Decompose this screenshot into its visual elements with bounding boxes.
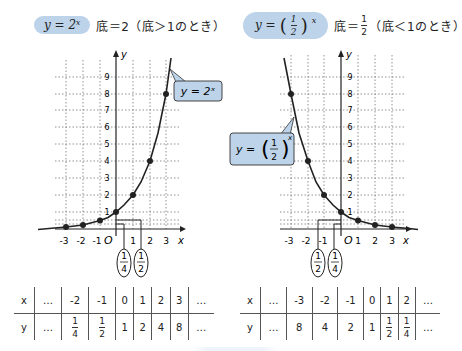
- right-callout-exp: x: [287, 134, 293, 142]
- right-table-y-row: y … 8 4 2 1 12 14 …: [240, 314, 440, 341]
- right-callout-pointer: [280, 117, 294, 135]
- right-y-ticks: 1 2 3 4 5 6 7 8 9: [347, 73, 352, 217]
- right-graph: y x O -3 -2 -1 1 2 3 1 2 3 4 5 6 7 8 9 1…: [0, 0, 456, 290]
- svg-text:2: 2: [372, 236, 378, 246]
- right-callout-prefix: y =: [235, 143, 255, 156]
- right-annotation-quarter-num: 1: [332, 251, 338, 261]
- svg-text:8: 8: [347, 90, 352, 99]
- svg-text:-1: -1: [319, 236, 328, 246]
- right-table-x-row: x … -3 -2 -1 0 1 2 …: [240, 287, 440, 314]
- figure-caption-partial: [190, 347, 280, 351]
- svg-text:3: 3: [389, 236, 395, 246]
- right-callout-num: 1: [271, 138, 277, 148]
- svg-text:3: 3: [347, 174, 352, 183]
- right-value-table: x … -3 -2 -1 0 1 2 … y … 8 4 2 1 12 14 …: [240, 287, 440, 340]
- right-x-ticks: -3 -2 -1 1 2 3: [285, 236, 395, 246]
- svg-text:-2: -2: [302, 236, 311, 246]
- right-annotation-quarter-den: 4: [332, 264, 338, 274]
- right-grid: [280, 55, 405, 229]
- svg-text:1: 1: [347, 208, 352, 217]
- svg-text:4: 4: [347, 157, 352, 166]
- svg-text:2: 2: [347, 191, 352, 200]
- left-table-x-row: x … -2 -1 0 1 2 3 …: [14, 287, 214, 314]
- right-leader-quarter: [334, 224, 341, 249]
- svg-text:1: 1: [355, 236, 361, 246]
- right-x-label: x: [402, 235, 409, 246]
- right-origin: O: [344, 234, 353, 247]
- right-callout-den: 2: [271, 152, 277, 162]
- right-annotation-half-den: 2: [315, 264, 321, 274]
- left-table-y-row: y … 14 12 1 2 4 8 …: [14, 314, 214, 341]
- right-y-label: y: [345, 49, 353, 60]
- svg-text:5: 5: [347, 140, 352, 149]
- left-value-table: x … -2 -1 0 1 2 3 … y … 14 12 1 2 4 8 …: [14, 287, 214, 340]
- right-annotation-half-num: 1: [315, 251, 321, 261]
- svg-text:9: 9: [347, 73, 352, 82]
- svg-text:-3: -3: [285, 236, 294, 246]
- svg-text:6: 6: [347, 123, 352, 132]
- right-y-arrow-icon: [338, 50, 344, 57]
- svg-text:7: 7: [347, 106, 352, 115]
- right-callout-lparen: (: [261, 136, 270, 161]
